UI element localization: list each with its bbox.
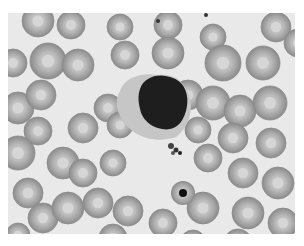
central-pallor xyxy=(38,213,49,224)
central-pallor xyxy=(266,138,277,149)
red-blood-cell xyxy=(180,230,206,234)
central-pallor xyxy=(8,58,18,68)
central-pallor xyxy=(108,158,117,167)
central-pallor xyxy=(257,57,269,69)
central-pallor xyxy=(242,207,253,218)
central-pallor xyxy=(203,153,213,163)
central-pallor xyxy=(123,206,134,217)
blood-smear-image xyxy=(8,13,295,234)
central-pallor xyxy=(72,59,83,70)
central-pallor xyxy=(103,103,113,113)
smear-canvas xyxy=(8,13,295,234)
central-pallor xyxy=(238,168,249,179)
central-pallor xyxy=(207,97,219,109)
central-pallor xyxy=(42,55,55,68)
central-pallor xyxy=(57,157,68,168)
central-pallor xyxy=(271,22,282,33)
red-blood-cell xyxy=(224,229,252,234)
central-pallor xyxy=(208,32,217,41)
central-pallor xyxy=(264,97,276,109)
central-pallor xyxy=(193,125,202,134)
central-pallor xyxy=(62,202,73,213)
central-pallor xyxy=(163,20,173,30)
central-pallor xyxy=(115,120,124,129)
nucleated-red-cell xyxy=(171,181,195,205)
central-pallor xyxy=(272,177,283,188)
central-pallor xyxy=(234,105,245,116)
central-pallor xyxy=(120,50,130,60)
central-pallor xyxy=(78,168,88,178)
central-pallor xyxy=(217,57,230,70)
central-pallor xyxy=(36,90,47,101)
central-pallor xyxy=(23,188,34,199)
central-pallor xyxy=(158,218,168,228)
central-pallor xyxy=(93,198,104,209)
central-pallor xyxy=(78,123,89,134)
central-pallor xyxy=(197,202,208,213)
central-pallor xyxy=(33,126,43,136)
central-pallor xyxy=(228,133,239,144)
central-pallor xyxy=(278,218,289,229)
central-pallor xyxy=(12,147,24,159)
central-pallor xyxy=(115,22,124,31)
central-pallor xyxy=(162,47,173,58)
central-pallor xyxy=(12,102,23,113)
central-pallor xyxy=(32,15,43,26)
red-blood-cell xyxy=(99,224,127,234)
central-pallor xyxy=(66,20,76,30)
